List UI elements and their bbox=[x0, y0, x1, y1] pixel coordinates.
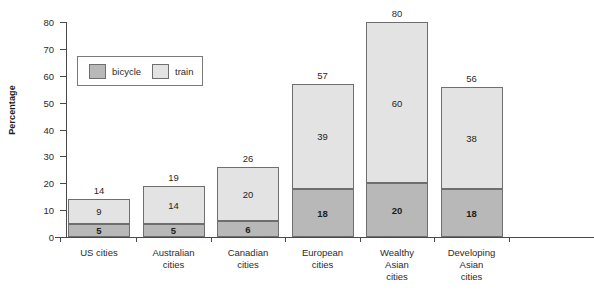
bar-total-label: 80 bbox=[366, 8, 428, 19]
x-category-label: Australiancities bbox=[134, 247, 214, 271]
x-category-label-line: Wealthy bbox=[357, 247, 437, 259]
y-tick-label: 40 bbox=[24, 130, 54, 131]
x-category-label: DevelopingAsiancities bbox=[432, 247, 512, 283]
x-category-label: Europeancities bbox=[283, 247, 363, 271]
x-category-label-line: Asian bbox=[432, 259, 512, 271]
x-category-label-line: cities bbox=[283, 259, 363, 271]
x-category-label: Canadiancities bbox=[208, 247, 288, 271]
bar-segment-bicycle: 18 bbox=[441, 189, 503, 237]
x-category-label-line: US cities bbox=[59, 247, 139, 259]
bar-value-bicycle: 5 bbox=[144, 225, 204, 236]
y-tick-mark bbox=[60, 156, 66, 157]
x-category-label-line: cities bbox=[357, 271, 437, 283]
bar-value-bicycle: 18 bbox=[442, 207, 502, 218]
bar-total-label: 26 bbox=[217, 153, 279, 164]
y-tick-label: 10 bbox=[24, 210, 54, 211]
chart-legend: bicycle train bbox=[77, 56, 203, 86]
x-category-label-line: Canadian bbox=[208, 247, 288, 259]
y-tick-label: 30 bbox=[24, 156, 54, 157]
y-tick-mark bbox=[60, 210, 66, 211]
bar-group: 206080 bbox=[366, 22, 428, 237]
x-tick-mark bbox=[60, 237, 61, 242]
x-category-label-line: Asian bbox=[357, 259, 437, 271]
legend-item-bicycle: bicycle bbox=[89, 57, 141, 85]
x-tick-mark bbox=[136, 237, 137, 242]
bar-segment-bicycle: 6 bbox=[217, 221, 279, 237]
x-category-label: WealthyAsiancities bbox=[357, 247, 437, 283]
bar-segment-train: 20 bbox=[217, 167, 279, 221]
bar-segment-train: 9 bbox=[68, 199, 130, 223]
bar-segment-train: 14 bbox=[143, 186, 205, 224]
bar-segment-train: 38 bbox=[441, 87, 503, 189]
bar-segment-bicycle: 5 bbox=[68, 224, 130, 237]
legend-swatch-bicycle-icon bbox=[89, 64, 106, 79]
bar-value-train: 20 bbox=[218, 189, 278, 200]
plot-area: 01020304050607080 5914514196202618395720… bbox=[66, 22, 529, 237]
y-tick-mark bbox=[60, 22, 66, 23]
x-tick-mark bbox=[360, 237, 361, 242]
y-tick-label: 0 bbox=[24, 237, 54, 238]
legend-label-train: train bbox=[175, 66, 193, 77]
x-category-label-line: cities bbox=[134, 259, 214, 271]
bar-segment-bicycle: 5 bbox=[143, 224, 205, 237]
bar-value-train: 9 bbox=[69, 206, 129, 217]
x-tick-mark bbox=[285, 237, 286, 242]
x-category-label-line: Developing bbox=[432, 247, 512, 259]
legend-swatch-train-icon bbox=[152, 64, 169, 79]
y-tick-mark bbox=[60, 103, 66, 104]
x-category-label-line: European bbox=[283, 247, 363, 259]
x-category-label-line: Australian bbox=[134, 247, 214, 259]
y-tick-label: 60 bbox=[24, 76, 54, 77]
bar-value-train: 14 bbox=[144, 199, 204, 210]
bar-segment-bicycle: 18 bbox=[292, 189, 354, 237]
bar-value-bicycle: 6 bbox=[218, 223, 278, 234]
y-tick-label: 50 bbox=[24, 103, 54, 104]
y-tick-label: 80 bbox=[24, 22, 54, 23]
x-tick-mark bbox=[211, 237, 212, 242]
bar-value-train: 39 bbox=[293, 131, 353, 142]
y-axis-title: Percentage bbox=[7, 70, 17, 150]
bar-group: 183856 bbox=[441, 87, 503, 238]
bar-value-bicycle: 5 bbox=[69, 225, 129, 236]
bar-total-label: 19 bbox=[143, 172, 205, 183]
y-tick-label: 70 bbox=[24, 49, 54, 50]
bar-segment-bicycle: 20 bbox=[366, 183, 428, 237]
bar-total-label: 56 bbox=[441, 73, 503, 84]
bar-value-train: 60 bbox=[367, 97, 427, 108]
bar-group: 51419 bbox=[143, 186, 205, 237]
y-tick-mark bbox=[60, 183, 66, 184]
bar-value-bicycle: 18 bbox=[293, 207, 353, 218]
legend-item-train: train bbox=[152, 57, 193, 85]
y-tick-mark bbox=[60, 76, 66, 77]
x-category-label: US cities bbox=[59, 247, 139, 259]
bar-value-bicycle: 20 bbox=[367, 205, 427, 216]
y-tick-mark bbox=[60, 49, 66, 50]
bar-group: 62026 bbox=[217, 167, 279, 237]
y-tick-mark bbox=[60, 130, 66, 131]
bar-segment-train: 39 bbox=[292, 84, 354, 189]
x-category-label-line: cities bbox=[208, 259, 288, 271]
y-axis-line bbox=[66, 22, 67, 238]
bar-value-train: 38 bbox=[442, 132, 502, 143]
y-tick-label: 20 bbox=[24, 183, 54, 184]
bar-segment-train: 60 bbox=[366, 22, 428, 183]
bar-group: 5914 bbox=[68, 199, 130, 237]
legend-label-bicycle: bicycle bbox=[112, 66, 141, 77]
x-tick-mark bbox=[509, 237, 510, 242]
bar-total-label: 57 bbox=[292, 70, 354, 81]
x-category-label-line: cities bbox=[432, 271, 512, 283]
bar-total-label: 14 bbox=[68, 185, 130, 196]
x-tick-mark bbox=[434, 237, 435, 242]
bar-group: 183957 bbox=[292, 84, 354, 237]
